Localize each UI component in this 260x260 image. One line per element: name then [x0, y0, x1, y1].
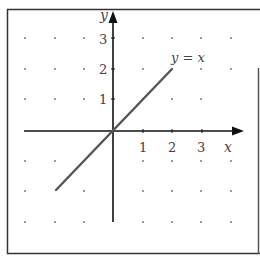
x-tick-label-3: 3	[197, 140, 205, 155]
x-tick-label-2: 2	[168, 140, 176, 155]
x-axis-arrow-icon	[232, 127, 244, 136]
coordinate-plane-figure: 1 2 3 x 1 2 3 y y = x	[0, 0, 260, 260]
x-axis-label: x	[224, 139, 232, 155]
x-tick-label-1: 1	[139, 140, 147, 155]
line-label: y = x	[170, 50, 206, 65]
y-tick-label-2: 2	[99, 62, 107, 77]
plot-svg: 1 2 3 x 1 2 3 y y = x	[0, 0, 260, 260]
line-y-equals-x	[56, 69, 172, 190]
y-axis-label: y	[99, 7, 109, 23]
y-tick-label-3: 3	[99, 32, 107, 47]
y-axis-arrow-icon	[109, 11, 118, 23]
y-tick-label-1: 1	[99, 92, 107, 107]
